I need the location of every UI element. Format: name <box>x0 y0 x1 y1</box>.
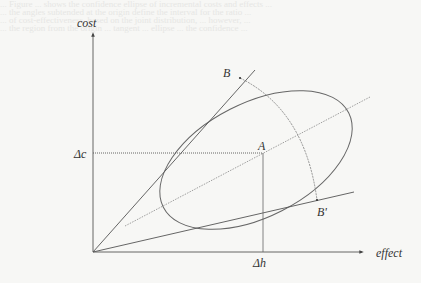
point-b-marker <box>239 77 241 79</box>
upper-tangent-ray <box>93 70 255 252</box>
point-a-label: A <box>257 139 266 153</box>
cost-effectiveness-diagram: cost effect A B B' Δc Δh <box>0 0 421 283</box>
x-axis-label: effect <box>376 246 403 260</box>
delta-h-label: Δh <box>252 256 266 270</box>
point-b-label: B <box>223 66 231 80</box>
point-b-prime-label: B' <box>317 205 327 219</box>
delta-c-label: Δc <box>73 147 87 161</box>
y-axis-label: cost <box>77 16 97 30</box>
confidence-ellipse <box>137 62 374 258</box>
point-b-prime-marker <box>316 199 318 201</box>
ellipse-major-axis <box>125 97 370 226</box>
rotation-arc <box>240 78 317 200</box>
